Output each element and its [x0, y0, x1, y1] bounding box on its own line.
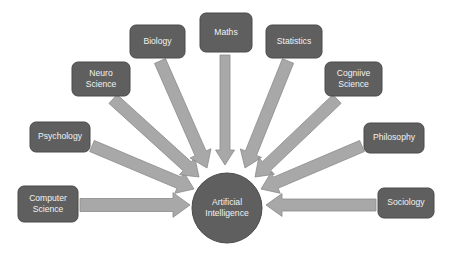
- node-label-cogniive-science-line2: Science: [338, 79, 369, 89]
- node-psychology[interactable]: Psychology: [30, 122, 90, 152]
- hub-label-line2: Intelligence: [205, 208, 249, 218]
- node-label-maths: Maths: [214, 27, 237, 37]
- node-neuro-science[interactable]: NeuroScience: [72, 62, 130, 96]
- arrow-sociology-to-hub: [266, 194, 376, 217]
- diagram-canvas: ComputerSciencePsychologyNeuroScienceBio…: [0, 0, 454, 254]
- ai-disciplines-diagram: ComputerSciencePsychologyNeuroScienceBio…: [0, 0, 454, 254]
- node-label-computer-science: Computer: [29, 193, 67, 203]
- node-computer-science[interactable]: ComputerScience: [18, 186, 78, 222]
- node-label-neuro-science-line2: Science: [86, 79, 117, 89]
- node-statistics[interactable]: Statistics: [266, 25, 322, 58]
- node-label-biology: Biology: [143, 36, 172, 46]
- arrow-maths-to-hub: [216, 55, 235, 165]
- hub-artificial-intelligence[interactable]: ArtificialIntelligence: [192, 173, 262, 243]
- node-label-computer-science-line2: Science: [33, 204, 64, 214]
- arrow-computer-science-to-hub: [80, 193, 190, 218]
- node-label-sociology: Sociology: [387, 197, 425, 207]
- node-label-statistics: Statistics: [277, 36, 311, 46]
- node-label-philosophy: Philosophy: [373, 132, 416, 142]
- node-label-neuro-science: Neuro: [89, 68, 113, 78]
- node-philosophy[interactable]: Philosophy: [364, 123, 424, 153]
- node-biology[interactable]: Biology: [130, 25, 185, 58]
- node-maths[interactable]: Maths: [200, 13, 252, 52]
- node-label-cogniive-science: Cogniive: [337, 68, 371, 78]
- node-label-psychology: Psychology: [38, 131, 83, 141]
- hub-label-line1: Artificial: [212, 197, 242, 207]
- node-cogniive-science[interactable]: CogniiveScience: [325, 62, 382, 96]
- node-sociology[interactable]: Sociology: [378, 188, 434, 218]
- hub-layer: ArtificialIntelligence: [192, 173, 262, 243]
